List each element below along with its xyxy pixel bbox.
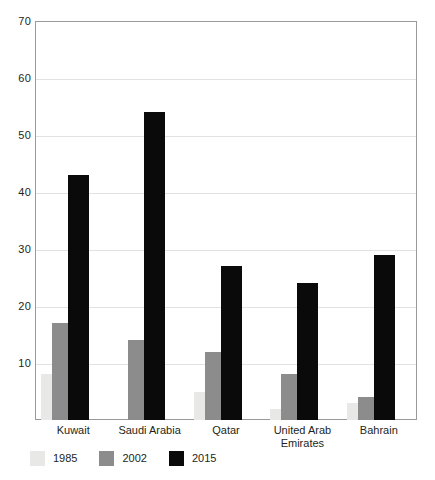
legend-label: 2002 (122, 453, 146, 464)
bar-2015 (144, 112, 165, 420)
x-axis-label-united-arab-emirates: United ArabEmirates (264, 424, 340, 450)
x-axis-label-line: Saudi Arabia (111, 424, 187, 437)
x-axis-label-kuwait: Kuwait (35, 424, 111, 437)
bar-group (264, 21, 340, 420)
x-axis-label-qatar: Qatar (188, 424, 264, 437)
x-axis-label-line: Emirates (264, 437, 340, 450)
x-axis-label-line: Bahrain (341, 424, 417, 437)
y-axis-tick-label: 50 (1, 130, 31, 141)
y-axis: 70605040302010 (0, 0, 31, 480)
legend-item-2002: 2002 (99, 451, 146, 466)
legend-swatch-icon (99, 451, 114, 466)
y-axis-tick-label: 20 (1, 301, 31, 312)
bar-2015 (221, 266, 242, 420)
y-axis-tick-label: 30 (1, 244, 31, 255)
bar-group (188, 21, 264, 420)
x-axis-label-line: Qatar (188, 424, 264, 437)
bar-2015 (68, 175, 89, 420)
bar-chart: 70605040302010 KuwaitSaudi ArabiaQatarUn… (0, 0, 435, 480)
bar-group (341, 21, 417, 420)
x-axis-label-saudi-arabia: Saudi Arabia (111, 424, 187, 437)
y-axis-tick-label: 10 (1, 358, 31, 369)
x-axis-label-bahrain: Bahrain (341, 424, 417, 437)
legend-swatch-icon (169, 451, 184, 466)
x-axis-label-line: Kuwait (35, 424, 111, 437)
bar-group (111, 21, 187, 420)
y-axis-tick-label: 60 (1, 73, 31, 84)
x-axis-label-line: United Arab (264, 424, 340, 437)
legend-label: 2015 (192, 453, 216, 464)
y-axis-tick-label: 40 (1, 187, 31, 198)
y-axis-tick-label: 70 (1, 16, 31, 27)
legend-item-1985: 1985 (30, 451, 77, 466)
bar-2015 (297, 283, 318, 420)
bar-group (35, 21, 111, 420)
legend-swatch-icon (30, 451, 45, 466)
bars-layer (35, 21, 417, 420)
legend-label: 1985 (53, 453, 77, 464)
legend-item-2015: 2015 (169, 451, 216, 466)
bar-2015 (374, 255, 395, 420)
legend: 198520022015 (30, 451, 238, 466)
